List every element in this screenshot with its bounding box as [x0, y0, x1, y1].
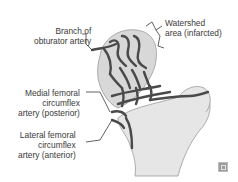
publisher-logo-icon [218, 162, 228, 172]
label-medial-line2: circumflex [18, 98, 80, 108]
label-lateral-line1: Lateral femoral [18, 130, 76, 140]
label-watershed-line1: Watershed [165, 18, 222, 28]
leader-lateral [86, 120, 112, 142]
label-lateral-line2: circumflex [18, 140, 76, 150]
watershed-bracket [146, 22, 162, 30]
label-lateral-line3: artery (anterior) [18, 150, 76, 160]
label-obturator-line1: Branch of [34, 26, 91, 36]
label-medial-line1: Medial femoral [18, 88, 80, 98]
label-watershed-line2: area (infarcted) [165, 28, 222, 38]
label-medial-circumflex: Medial femoral circumflex artery (poster… [18, 88, 80, 118]
label-watershed: Watershed area (infarcted) [165, 18, 222, 38]
label-lateral-circumflex: Lateral femoral circumflex artery (anter… [18, 130, 76, 160]
label-obturator: Branch of obturator artery [34, 26, 91, 46]
label-medial-line3: artery (posterior) [18, 108, 80, 118]
label-obturator-line2: obturator artery [34, 36, 91, 46]
